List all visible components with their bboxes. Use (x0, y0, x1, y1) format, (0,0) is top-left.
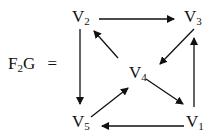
graph-name: F2G = (8, 55, 57, 74)
equals-sign: = (48, 54, 58, 73)
edge-v3-v4 (160, 29, 194, 64)
node-v5-base: V (72, 112, 84, 131)
edge-v4-v1 (146, 79, 183, 104)
edge-v5-v4 (91, 88, 128, 117)
node-v4-base: V (129, 63, 141, 82)
node-v3-sub: 3 (196, 15, 202, 27)
node-v4-sub: 4 (141, 71, 147, 83)
edge-v4-v2 (94, 31, 118, 58)
node-v2-base: V (72, 7, 84, 26)
node-v5: V5 (72, 113, 90, 132)
node-v3: V3 (184, 8, 202, 27)
node-v3-base: V (184, 7, 196, 26)
node-v1-base: V (186, 112, 198, 131)
node-v1-sub: 1 (198, 120, 204, 132)
graph-name-tail: G (23, 54, 35, 73)
node-v4: V4 (129, 64, 147, 83)
node-v2: V2 (72, 8, 90, 27)
node-v1: V1 (186, 113, 204, 132)
node-v2-sub: 2 (84, 15, 90, 27)
node-v5-sub: 5 (84, 120, 90, 132)
